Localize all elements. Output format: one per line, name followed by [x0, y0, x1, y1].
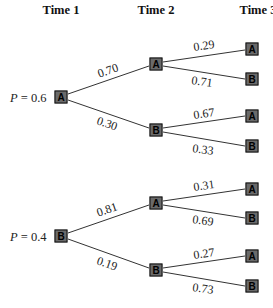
- prob-label: 0.73: [192, 280, 215, 298]
- time3-node-ab: B: [246, 212, 259, 225]
- prior-probability-label: P = 0.6: [10, 91, 47, 106]
- tree-edges: [0, 0, 273, 308]
- prob-label: 0.29: [193, 37, 216, 55]
- time3-node-ba: A: [246, 250, 259, 263]
- time3-node-aa: A: [246, 43, 259, 56]
- prob-label: 0.27: [193, 245, 216, 263]
- root-node-b: B: [55, 230, 68, 243]
- time3-node-bb: B: [246, 280, 259, 293]
- time2-node-a: A: [150, 58, 163, 71]
- root-node-a: A: [55, 91, 68, 104]
- time3-node-ba: A: [246, 110, 259, 123]
- time3-node-bb: B: [246, 140, 259, 153]
- prob-label: 0.71: [191, 73, 214, 91]
- prob-label: 0.69: [192, 212, 215, 230]
- prob-label: 0.67: [193, 105, 216, 123]
- time2-node-b: B: [150, 124, 163, 137]
- time3-node-aa: A: [246, 183, 259, 196]
- time3-node-ab: B: [246, 73, 259, 86]
- prior-probability-label: P = 0.4: [10, 230, 47, 245]
- time2-node-b: B: [150, 264, 163, 277]
- prob-label: 0.31: [193, 177, 216, 195]
- time2-node-a: A: [150, 197, 163, 210]
- prob-label: 0.33: [192, 141, 215, 159]
